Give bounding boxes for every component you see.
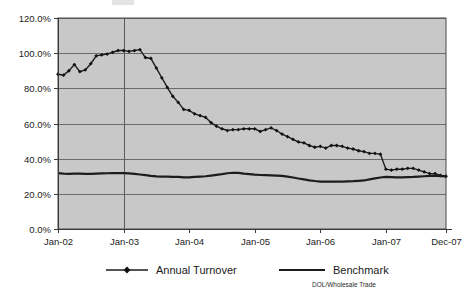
legend-label-annual-turnover: Annual Turnover (156, 264, 237, 276)
x-tick-label: Jan-05 (241, 236, 270, 247)
x-tick-label: Dec-07 (431, 236, 462, 247)
y-tick-label: 0.0% (29, 224, 51, 235)
x-tick-label: Jan-04 (175, 236, 204, 247)
chart-legend: Annual Turnover Benchmark (106, 264, 389, 276)
x-tick-label: Jan-06 (306, 236, 335, 247)
legend-label-benchmark: Benchmark (333, 264, 389, 276)
legend-marker-diamond-icon (124, 267, 131, 274)
y-tick-label: 120.0% (19, 13, 52, 24)
y-tick-label: 100.0% (19, 48, 52, 59)
x-tick-label: Jan-02 (44, 236, 73, 247)
y-tick-label: 40.0% (24, 154, 51, 165)
x-tick-label: Jan-03 (110, 236, 139, 247)
scan-artifact (112, 0, 134, 5)
source-note: DOL/Wholesale Trade (312, 281, 376, 288)
y-tick-label: 60.0% (24, 119, 51, 130)
chart-container: 0.0%20.0%40.0%60.0%80.0%100.0%120.0% Jan… (0, 0, 469, 298)
x-axis-ticks: Jan-02Jan-03Jan-04Jan-05Jan-06Jan-07Dec-… (44, 229, 462, 247)
plot-area-background (58, 18, 446, 229)
y-tick-label: 20.0% (24, 189, 51, 200)
y-axis-ticks: 0.0%20.0%40.0%60.0%80.0%100.0%120.0% (19, 13, 58, 235)
x-tick-label: Jan-07 (372, 236, 401, 247)
y-tick-label: 80.0% (24, 83, 51, 94)
line-chart: 0.0%20.0%40.0%60.0%80.0%100.0%120.0% Jan… (0, 0, 469, 298)
